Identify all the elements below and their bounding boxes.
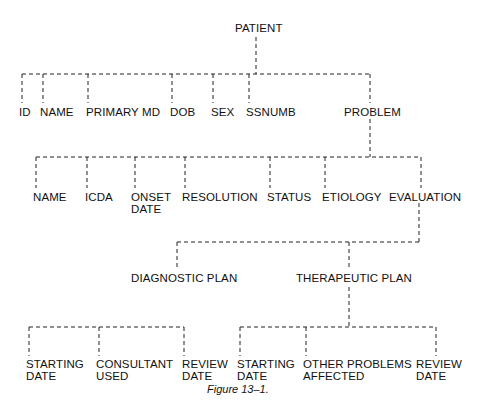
node-resolution: RESOLUTION	[182, 191, 258, 203]
node-tx-other-problems-line1: OTHER PROBLEMS	[303, 358, 412, 370]
figure-caption: Figure 13–1.	[207, 383, 269, 395]
node-name: NAME	[40, 106, 74, 118]
node-icda: ICDA	[85, 191, 113, 203]
node-primary-md: PRIMARY MD	[86, 106, 160, 118]
node-onset-date-line2: DATE	[131, 203, 161, 215]
node-dx-review-date-line2: DATE	[182, 370, 212, 382]
node-problem: PROBLEM	[344, 106, 401, 118]
node-tx-starting-date-line2: DATE	[237, 370, 267, 382]
node-dx-consultant-used-line2: USED	[96, 370, 128, 382]
node-id: ID	[19, 106, 31, 118]
node-sex: SEX	[211, 106, 234, 118]
node-tx-review-date-line2: DATE	[416, 370, 446, 382]
node-evaluation: EVALUATION	[389, 191, 461, 203]
node-status: STATUS	[267, 191, 311, 203]
node-problem-name: NAME	[33, 191, 67, 203]
node-dx-review-date-line1: REVIEW	[182, 358, 228, 370]
node-etiology: ETIOLOGY	[322, 191, 382, 203]
patient-record-tree-diagram: PATIENT ID NAME PRIMARY MD DOB SEX SSNUM…	[0, 0, 481, 416]
connector-lines	[0, 0, 481, 416]
node-ssnumb: SSNUMB	[246, 106, 296, 118]
node-tx-review-date-line1: REVIEW	[416, 358, 462, 370]
node-therapeutic-plan: THERAPEUTIC PLAN	[296, 272, 412, 284]
node-diagnostic-plan: DIAGNOSTIC PLAN	[131, 272, 237, 284]
node-dx-consultant-used-line1: CONSULTANT	[96, 358, 173, 370]
node-patient: PATIENT	[235, 22, 283, 34]
node-onset-date-line1: ONSET	[131, 191, 171, 203]
node-dx-starting-date-line1: STARTING	[26, 358, 84, 370]
node-dx-starting-date-line2: DATE	[26, 370, 56, 382]
node-tx-other-problems-line2: AFFECTED	[303, 370, 365, 382]
node-dob: DOB	[170, 106, 195, 118]
node-tx-starting-date-line1: STARTING	[237, 358, 295, 370]
